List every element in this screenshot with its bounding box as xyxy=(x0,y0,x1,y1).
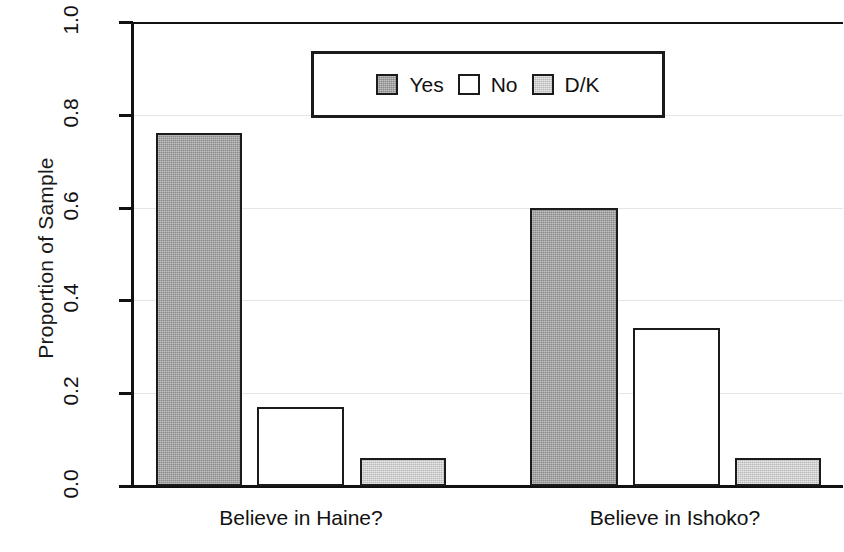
legend-item: No xyxy=(458,73,518,97)
x-axis-group-label: Believe in Haine? xyxy=(155,506,447,530)
y-axis-tick-label: 0.0 xyxy=(59,457,83,511)
legend-label: No xyxy=(491,73,518,97)
plot-frame-top xyxy=(131,22,843,24)
y-axis-tick-label: 0.8 xyxy=(59,86,83,140)
x-axis-group-label: Believe in Ishoko? xyxy=(529,506,821,530)
y-axis-tick-label: 1.0 xyxy=(59,0,83,47)
legend-swatch-icon xyxy=(532,74,554,95)
bar xyxy=(735,458,821,486)
legend-item: Yes xyxy=(376,73,443,97)
y-axis-line xyxy=(131,22,134,488)
y-axis-title: Proportion of Sample xyxy=(34,108,58,408)
legend: YesNoD/K xyxy=(311,51,665,118)
bar-chart: Proportion of Sample 1.00.80.60.40.20.0 … xyxy=(0,0,844,552)
legend-swatch-icon xyxy=(458,74,480,95)
bar xyxy=(257,407,344,486)
y-axis-tick-label: 0.2 xyxy=(59,364,83,418)
legend-label: Yes xyxy=(409,73,443,97)
legend-label: D/K xyxy=(565,73,600,97)
y-axis-tick-label: 0.6 xyxy=(59,179,83,233)
bar xyxy=(360,458,446,486)
legend-item: D/K xyxy=(532,73,600,97)
legend-swatch-icon xyxy=(376,74,398,95)
y-axis-tick-label: 0.4 xyxy=(59,271,83,325)
bar xyxy=(530,208,618,486)
bar xyxy=(633,328,720,486)
bar xyxy=(156,133,242,486)
